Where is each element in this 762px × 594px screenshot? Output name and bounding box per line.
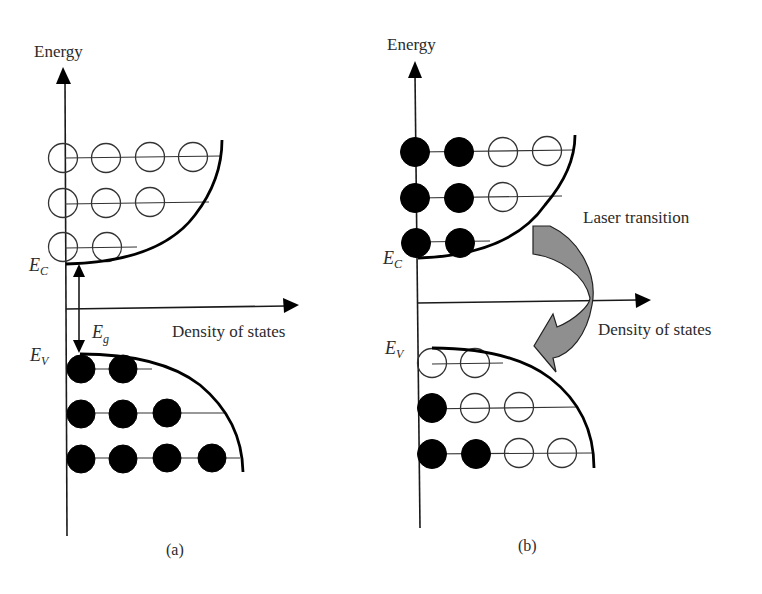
filled-state — [401, 138, 430, 167]
eg-label: Eg — [91, 322, 109, 346]
filled-state — [198, 444, 226, 472]
energy-axis-label-b: Energy — [387, 35, 436, 54]
band-gap-arrow-up-icon — [73, 264, 85, 277]
empty-state — [505, 393, 534, 422]
dos-axis-label-b: Density of states — [598, 320, 711, 339]
panel-a: Energy Density of states EC Eg EV — [28, 42, 299, 559]
laser-transition-arrow-icon — [533, 226, 593, 372]
ev-label-a: EV — [29, 345, 50, 368]
energy-level — [65, 202, 209, 204]
filled-state — [445, 138, 474, 167]
filled-state — [67, 355, 95, 383]
ec-label-a: EC — [28, 255, 49, 278]
empty-state — [49, 233, 78, 262]
filled-state — [401, 184, 430, 213]
energy-level — [416, 150, 573, 152]
caption-b: (b) — [518, 537, 537, 555]
filled-state — [153, 399, 181, 427]
filled-state — [109, 400, 137, 428]
caption-a: (a) — [166, 541, 184, 559]
laser-transition-label: Laser transition — [583, 208, 690, 227]
dos-axis-a — [66, 306, 286, 309]
energy-axis-a — [65, 80, 67, 536]
band-gap-arrow-down-icon — [73, 340, 85, 353]
energy-level — [65, 247, 137, 248]
band-diagram-figure: Energy Density of states EC Eg EV — [0, 0, 762, 594]
dos-axis-b — [417, 300, 638, 303]
ev-label-b: EV — [384, 338, 405, 361]
dos-axis-label-a: Density of states — [172, 322, 285, 341]
filled-state — [153, 444, 181, 472]
energy-level — [432, 363, 503, 364]
empty-state — [49, 189, 78, 218]
energy-axis-arrow-icon — [56, 67, 71, 84]
empty-state — [418, 349, 447, 378]
energy-level — [65, 156, 222, 158]
empty-state — [136, 188, 165, 217]
energy-axis-label-a: Energy — [34, 42, 83, 61]
dos-axis-arrow-icon — [635, 293, 651, 308]
ec-label-b: EC — [382, 248, 403, 271]
filled-state — [402, 229, 431, 258]
filled-state — [418, 394, 447, 423]
filled-state — [462, 440, 491, 469]
filled-state — [67, 400, 95, 428]
filled-state — [67, 445, 95, 473]
filled-state — [418, 440, 447, 469]
panel-b: Energy Density of states EC Laser transi… — [382, 35, 711, 555]
energy-axis-arrow-icon — [408, 61, 422, 78]
filled-state — [109, 445, 137, 473]
dos-axis-arrow-icon — [283, 298, 299, 313]
filled-state — [445, 184, 474, 213]
empty-state — [489, 138, 518, 167]
